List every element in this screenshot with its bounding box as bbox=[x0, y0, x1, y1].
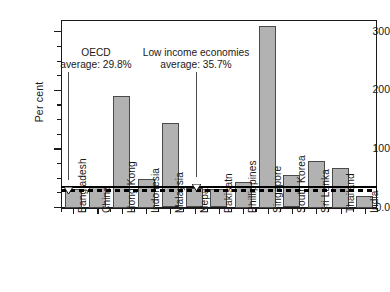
x-tick bbox=[219, 208, 220, 214]
annotation-arrow-icon bbox=[192, 177, 201, 184]
x-tick bbox=[268, 208, 269, 214]
y-tick-minor bbox=[57, 163, 61, 164]
y-tick-label: 200 bbox=[354, 83, 390, 95]
annotation-arrow-icon bbox=[64, 180, 73, 187]
y-tick-major bbox=[54, 207, 61, 208]
annotation-leader-line bbox=[196, 72, 197, 177]
y-tick-major bbox=[54, 148, 61, 149]
x-tick bbox=[292, 208, 293, 214]
reference-line-oecd-average bbox=[61, 189, 377, 192]
x-axis-label: South Korea bbox=[296, 155, 307, 213]
x-tick bbox=[365, 208, 366, 214]
x-tick bbox=[195, 208, 196, 214]
bar-chart: Per cent 0.0100200300 BangladeshChinaHon… bbox=[0, 0, 390, 292]
x-tick bbox=[97, 208, 98, 214]
x-tick bbox=[73, 208, 74, 214]
annotation-leader-line bbox=[68, 72, 69, 180]
y-tick-minor bbox=[57, 192, 61, 193]
y-tick-minor bbox=[57, 134, 61, 135]
y-tick-minor bbox=[57, 75, 61, 76]
y-tick-minor bbox=[57, 178, 61, 179]
x-axis-label: Thailand bbox=[345, 173, 356, 213]
y-tick-minor bbox=[57, 104, 61, 105]
x-axis-label: Pakisatn bbox=[223, 173, 234, 213]
x-tick bbox=[316, 208, 317, 214]
y-tick-major bbox=[54, 90, 61, 91]
x-tick bbox=[341, 208, 342, 214]
y-tick-major bbox=[54, 31, 61, 32]
reference-line-low-income-average bbox=[61, 186, 377, 188]
y-tick-label: 100 bbox=[354, 142, 390, 154]
y-tick-minor bbox=[57, 119, 61, 120]
x-tick bbox=[61, 208, 62, 212]
x-tick bbox=[243, 208, 244, 214]
annotation-low-income-average: Low income economiesaverage: 35.7% bbox=[126, 47, 266, 71]
x-axis-label: India bbox=[369, 190, 380, 213]
y-tick-label: 300 bbox=[354, 25, 390, 37]
x-tick bbox=[122, 208, 123, 214]
x-tick bbox=[170, 208, 171, 214]
annotation-line-1: Low income economies bbox=[126, 47, 266, 59]
annotation-line-2: average: 35.7% bbox=[126, 59, 266, 71]
x-axis-label: Malaysia bbox=[174, 172, 185, 213]
x-tick bbox=[146, 208, 147, 214]
